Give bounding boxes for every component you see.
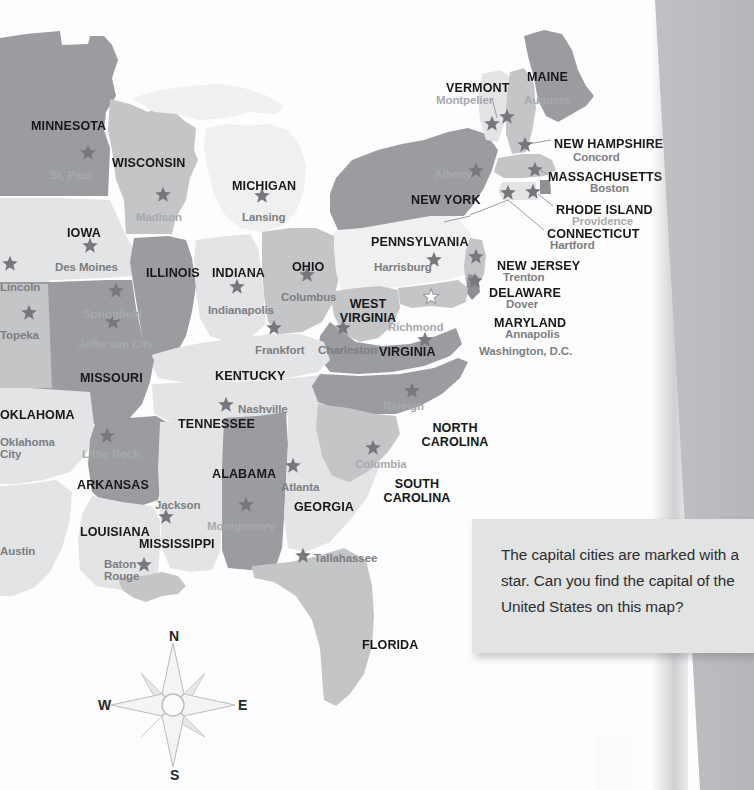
state-label-indiana: INDIANA [212, 266, 265, 280]
city-label-austin: Austin [0, 546, 35, 558]
city-label-st-paul: St. Paul [50, 170, 91, 182]
city-label-harrisburg: Harrisburg [374, 262, 432, 274]
compass-rose: N S W E [98, 628, 248, 783]
map-page-root: MINNESOTAWISCONSINMICHIGANIOWAILLINOISIN… [0, 0, 754, 790]
state-label-missouri: MISSOURI [80, 371, 143, 385]
city-label-little-rock: Little Rock [82, 449, 140, 461]
state-shape-alabama [222, 412, 288, 570]
state-label-iowa: IOWA [67, 226, 101, 240]
compass-label-north: N [169, 628, 179, 644]
compass-label-west: W [98, 697, 111, 713]
city-label-springfield: Springfield [83, 309, 142, 321]
compass-label-south: S [170, 767, 179, 783]
city-label-madison: Madison [136, 212, 182, 224]
state-shape-newyork [330, 128, 498, 230]
city-label-dover: Dover [506, 299, 538, 311]
city-label-baton-rouge: Baton Rouge [104, 559, 139, 582]
city-label-columbia: Columbia [355, 459, 407, 471]
leader-line-hartford [470, 200, 544, 230]
city-label-topeka: Topeka [0, 330, 39, 342]
city-label-jefferson-city: Jefferson City [78, 339, 153, 351]
callout-text: The capital cities are marked with a sta… [501, 542, 739, 620]
city-label-augusta: Augusta [524, 95, 569, 107]
city-label-concord: Concord [573, 152, 620, 164]
city-label-des-moines: Des Moines [55, 262, 118, 274]
state-label-alabama: ALABAMA [212, 467, 276, 481]
state-label-tennessee: TENNESSEE [178, 417, 255, 431]
state-label-pennsylvania: PENNSYLVANIA [371, 235, 469, 249]
state-label-maine: MAINE [527, 70, 568, 84]
city-label-indianapolis: Indianapolis [208, 305, 274, 317]
state-shape-arkansas [88, 416, 170, 508]
state-shape-ohio [262, 228, 340, 334]
state-label-south-carolina: SOUTH CAROLINA [383, 477, 450, 505]
compass-label-east: E [238, 697, 247, 713]
state-label-mississippi: MISSISSIPPI [139, 537, 215, 551]
callout-box: The capital cities are marked with a sta… [472, 519, 754, 653]
state-label-michigan: MICHIGAN [232, 179, 296, 193]
city-label-montpelier: Montpelier [436, 95, 493, 107]
state-shape-texas [0, 480, 72, 596]
compass-center-circle [162, 694, 184, 716]
city-label-lansing: Lansing [242, 212, 285, 224]
state-label-north-carolina: NORTH CAROLINA [421, 421, 488, 449]
state-label-florida: FLORIDA [362, 638, 418, 652]
city-label-trenton: Trenton [503, 272, 544, 284]
state-shape-nebraska [0, 228, 50, 282]
state-label-new-hampshire: NEW HAMPSHIRE [554, 137, 663, 151]
city-label-hartford: Hartford [550, 240, 595, 252]
state-label-oklahoma: OKLAHOMA [0, 408, 75, 422]
city-label-washington-d-c: Washington, D.C. [479, 346, 572, 358]
state-label-illinois: ILLINOIS [146, 266, 200, 280]
state-label-ohio: OHIO [292, 260, 324, 274]
city-label-montgomery: Montgomery [207, 521, 275, 533]
city-label-jackson: Jackson [155, 500, 200, 512]
compass-rose-svg [98, 628, 248, 783]
city-label-lincoln: Lincoln [0, 282, 40, 294]
city-label-charleston: Charleston [318, 345, 377, 357]
state-shape-florida [252, 548, 374, 706]
state-shape-indiana [194, 234, 266, 342]
city-label-nashville: Nashville [238, 404, 288, 416]
city-label-annapolis: Annapolis [505, 329, 560, 341]
state-label-wisconsin: WISCONSIN [112, 156, 185, 170]
city-label-boston: Boston [590, 183, 629, 195]
city-label-tallahassee: Tallahassee [314, 553, 377, 565]
city-label-richmond: Richmond [388, 322, 443, 334]
state-label-new-york: NEW YORK [411, 193, 481, 207]
city-label-oklahoma-city: Oklahoma City [0, 437, 55, 460]
city-label-albany: Albany [434, 169, 472, 181]
state-label-arkansas: ARKANSAS [77, 478, 149, 492]
state-label-georgia: GEORGIA [294, 500, 354, 514]
state-label-kentucky: KENTUCKY [215, 369, 286, 383]
city-label-providence: Providence [572, 216, 633, 228]
state-label-minnesota: MINNESOTA [31, 119, 106, 133]
city-label-columbus: Columbus [281, 292, 336, 304]
leader-line-providence [538, 194, 553, 206]
state-label-vermont: VERMONT [446, 81, 509, 95]
city-label-frankfort: Frankfort [255, 345, 305, 357]
state-label-virginia: VIRGINIA [379, 345, 436, 359]
city-label-raleigh: Raleigh [383, 401, 424, 413]
city-label-atlanta: Atlanta [281, 482, 319, 494]
